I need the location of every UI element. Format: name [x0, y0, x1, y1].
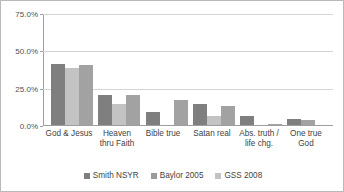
bar-baylor-2005 — [112, 104, 126, 125]
bar-smith-nsyr — [146, 112, 160, 125]
legend-item-smith-nsyr: Smith NSYR — [84, 171, 139, 180]
y-axis-line — [43, 14, 44, 126]
bar-gss-2008 — [301, 120, 315, 125]
legend-item-gss-2008: GSS 2008 — [215, 171, 262, 180]
bar-baylor-2005 — [65, 68, 79, 125]
bar-gss-2008 — [126, 95, 140, 125]
legend-swatch-icon — [84, 173, 90, 179]
bar-gss-2008 — [174, 100, 188, 125]
bar-smith-nsyr — [240, 116, 254, 125]
bar-group — [240, 14, 282, 125]
legend-swatch-icon — [215, 173, 221, 179]
bar-smith-nsyr — [98, 95, 112, 125]
y-tick-label: 50.0% — [1, 47, 38, 56]
bar-gss-2008 — [221, 106, 235, 125]
bar-smith-nsyr — [287, 119, 301, 125]
bar-group — [51, 14, 93, 125]
bar-group — [193, 14, 235, 125]
bar-smith-nsyr — [51, 64, 65, 125]
chart-legend: Smith NSYR Baylor 2005 GSS 2008 — [1, 171, 344, 180]
bar-group — [98, 14, 140, 125]
y-tick-label: 25.0% — [1, 84, 38, 93]
legend-label: Smith NSYR — [93, 171, 139, 180]
legend-label: GSS 2008 — [224, 171, 262, 180]
bar-baylor-2005 — [207, 116, 221, 125]
y-tick-label: 75.0% — [1, 10, 38, 19]
bar-gss-2008 — [79, 65, 93, 125]
bar-group — [287, 14, 329, 125]
chart-container: 75.0% 50.0% 25.0% 0.0% — [0, 0, 344, 192]
x-tick-label-one-true-god: One true God — [277, 129, 335, 149]
legend-swatch-icon — [151, 173, 157, 179]
bar-group — [146, 14, 188, 125]
bar-smith-nsyr — [193, 104, 207, 125]
y-tick-mark — [40, 126, 43, 127]
legend-label: Baylor 2005 — [160, 171, 204, 180]
legend-item-baylor-2005: Baylor 2005 — [151, 171, 204, 180]
plot-area — [43, 14, 333, 126]
bar-gss-2008 — [268, 124, 282, 125]
x-axis-line — [43, 125, 333, 126]
